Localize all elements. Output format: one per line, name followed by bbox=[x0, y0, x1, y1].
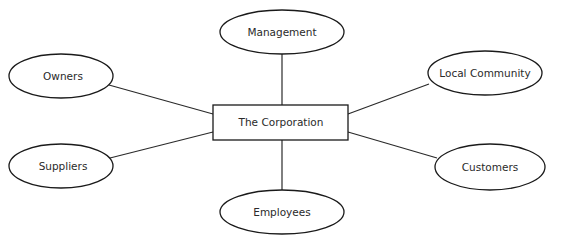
employees-label: Employees bbox=[253, 206, 310, 218]
corporation-label: The Corporation bbox=[238, 116, 324, 128]
local-community-label: Local Community bbox=[439, 67, 530, 79]
management-label: Management bbox=[247, 26, 316, 38]
node-corporation: The Corporation bbox=[213, 105, 348, 140]
owners-label: Owners bbox=[43, 70, 83, 82]
node-owners: Owners bbox=[9, 54, 113, 98]
customers-label: Customers bbox=[462, 161, 518, 173]
node-customers: Customers bbox=[435, 144, 545, 190]
stakeholder-diagram: Management Owners Local Community Suppli… bbox=[0, 0, 562, 241]
node-suppliers: Suppliers bbox=[9, 144, 113, 188]
edge-suppliers bbox=[110, 132, 213, 158]
node-employees: Employees bbox=[220, 190, 344, 234]
edge-owners bbox=[109, 85, 213, 114]
node-management: Management bbox=[220, 10, 344, 54]
suppliers-label: Suppliers bbox=[39, 160, 88, 172]
edge-customers bbox=[348, 132, 437, 158]
edge-local-community bbox=[348, 84, 429, 114]
node-local-community: Local Community bbox=[428, 51, 542, 95]
